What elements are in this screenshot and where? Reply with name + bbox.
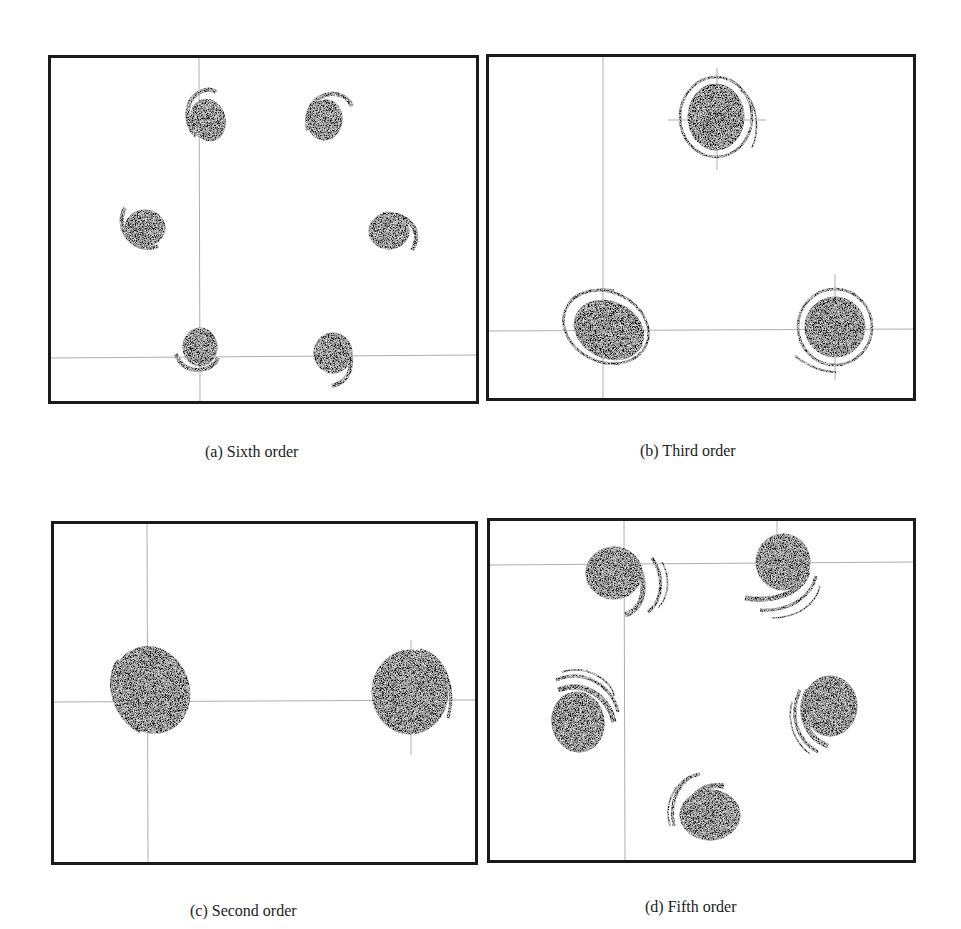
island-5: [668, 774, 740, 840]
panel-second-order: [51, 521, 478, 865]
island-3: [122, 208, 165, 248]
island-2: [372, 650, 451, 734]
island-2: [305, 94, 352, 143]
island-3: [547, 670, 618, 756]
horizontal-axis-line: [51, 355, 476, 358]
second-order-plot: [54, 524, 475, 862]
island-1: [100, 636, 202, 745]
horizontal-axis-line: [490, 562, 913, 565]
third-order-plot: [489, 57, 913, 398]
panel-sixth-order: [48, 55, 479, 404]
caption-fifth-order: (d) Fifth order: [645, 898, 737, 916]
caption-third-order: (b) Third order: [640, 442, 736, 460]
island-1: [586, 547, 668, 615]
caption-sixth-order: (a) Sixth order: [205, 443, 298, 461]
island-3: [795, 289, 872, 372]
panel-third-order: [486, 54, 916, 401]
island-1: [680, 77, 756, 157]
caption-second-order: (c) Second order: [190, 902, 297, 920]
island-5: [176, 328, 218, 370]
sixth-order-plot: [51, 58, 476, 401]
island-1: [186, 90, 230, 145]
island-4: [369, 213, 416, 250]
island-2: [551, 277, 660, 378]
island-6: [314, 333, 352, 386]
island-2: [745, 534, 820, 618]
fifth-order-plot: [490, 521, 913, 860]
island-4: [790, 676, 857, 754]
panel-fifth-order: [487, 518, 916, 863]
